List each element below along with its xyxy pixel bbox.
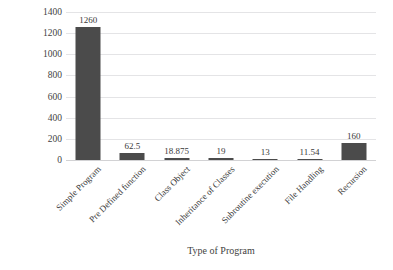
bar-value-label: 160	[347, 131, 361, 141]
y-axis-tick-label: 1200	[32, 28, 62, 38]
y-axis-tick-label: 1400	[32, 7, 62, 17]
bar-slot: 160	[332, 12, 376, 160]
y-axis-tick-label: 1000	[32, 49, 62, 59]
bar	[341, 143, 366, 160]
bar-series: 126062.518.875191311.54160	[66, 12, 376, 160]
x-axis-tick-label: Recursion	[336, 164, 369, 197]
bar	[164, 158, 189, 160]
bar-slot: 62.5	[110, 12, 154, 160]
gridline	[66, 160, 376, 161]
bar	[76, 27, 101, 160]
x-axis-tick-label: Class Object	[152, 164, 191, 203]
y-axis-tick-label: 200	[32, 134, 62, 144]
bar-slot: 11.54	[287, 12, 331, 160]
bar-value-label: 19	[216, 146, 225, 156]
y-axis-tick-label: 800	[32, 70, 62, 80]
bar-slot: 13	[243, 12, 287, 160]
y-axis-tick-label: 600	[32, 92, 62, 102]
bar-value-label: 62.5	[125, 141, 141, 151]
bar-value-label: 18.875	[164, 146, 189, 156]
y-axis-tick-label: 0	[32, 155, 62, 165]
bar	[120, 153, 145, 160]
bar	[208, 158, 233, 160]
x-axis-tick-label: Simple Program	[55, 164, 104, 213]
chart-figure: Performance Ratio 0200400600800100012001…	[0, 0, 393, 270]
x-axis-title: Type of Program	[66, 245, 376, 256]
bar-slot: 19	[199, 12, 243, 160]
x-axis-tick-labels: Simple ProgramPre Defined functionClass …	[66, 162, 376, 242]
x-axis-tick-label: File Handling	[282, 164, 324, 206]
bar-value-label: 11.54	[300, 147, 320, 157]
bar	[253, 159, 278, 161]
bar	[297, 159, 322, 161]
bar-slot: 18.875	[155, 12, 199, 160]
bar-value-label: 13	[261, 147, 270, 157]
y-axis-tick-label: 400	[32, 113, 62, 123]
bar-value-label: 1260	[79, 15, 97, 25]
bar-slot: 1260	[66, 12, 110, 160]
